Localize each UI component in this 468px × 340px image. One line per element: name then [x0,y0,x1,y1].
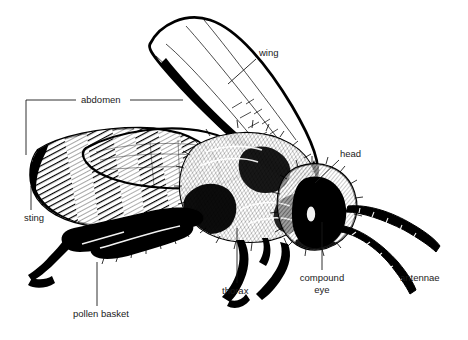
label-text-antennae: antennae [400,272,440,283]
label-text-pollen-basket: pollen basket [73,308,129,319]
compound-eye-highlight [307,207,315,222]
label-antennae: antennae [400,272,440,283]
diagram-canvas: wing abdomen head sting thorax [0,0,468,340]
label-text-wing: wing [258,47,279,58]
label-text-head: head [340,148,361,159]
label-text-thorax: thorax [222,285,249,296]
label-text-compound-eye-line2: eye [314,284,329,295]
label-text-compound-eye-line1: compound [300,272,344,283]
label-text-sting: sting [24,212,44,223]
bee-anatomy-diagram: wing abdomen head sting thorax [0,0,468,340]
label-text-abdomen: abdomen [81,94,121,105]
